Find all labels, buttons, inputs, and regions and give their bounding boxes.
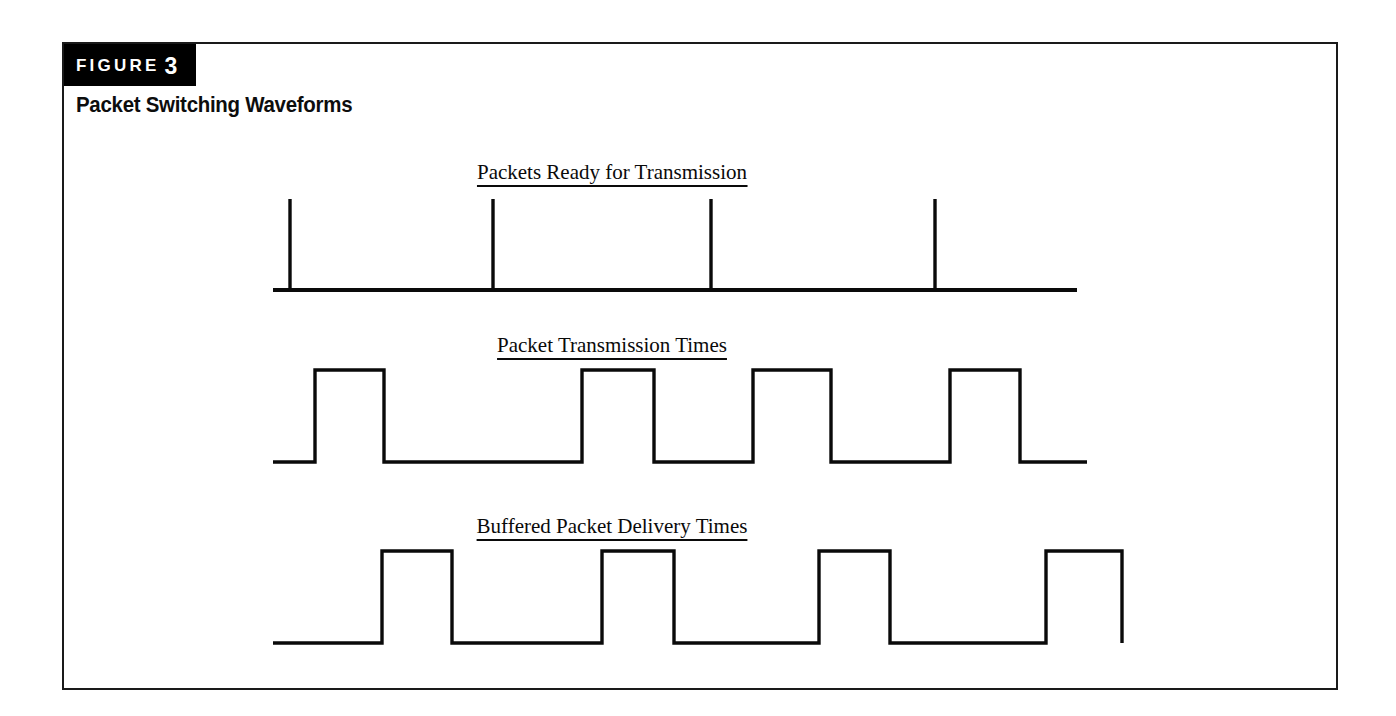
figure-frame: FIGURE 3 Packet Switching Waveforms Pack… bbox=[62, 42, 1338, 690]
waveform-panel-label: Packets Ready for Transmission bbox=[477, 160, 748, 184]
waveform-svg: Packets Ready for Transmission Packet Tr… bbox=[64, 44, 1336, 688]
pulse-train-path bbox=[273, 370, 1087, 462]
waveform-panel-buffered-delivery: Buffered Packet Delivery Times bbox=[273, 514, 1122, 643]
waveform-panel-label: Packet Transmission Times bbox=[497, 333, 727, 357]
waveform-panel-packets-ready: Packets Ready for Transmission bbox=[273, 160, 1077, 290]
waveform-panel-label: Buffered Packet Delivery Times bbox=[477, 514, 748, 538]
waveform-chart: Packets Ready for Transmission Packet Tr… bbox=[64, 44, 1336, 688]
pulse-train-path bbox=[273, 551, 1122, 643]
waveform-panel-packet-transmission: Packet Transmission Times bbox=[273, 333, 1087, 462]
